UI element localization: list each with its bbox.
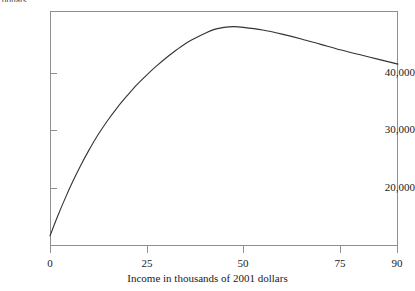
y-tick-label-40000: 40,000 <box>371 67 415 78</box>
x-tick-label-0: 0 <box>47 258 53 269</box>
x-tick-label-25: 25 <box>142 258 153 269</box>
x-tick-mark-90 <box>397 246 398 253</box>
x-tick-label-75: 75 <box>335 258 346 269</box>
x-tick-label-90: 90 <box>392 258 403 269</box>
line-path <box>50 27 398 236</box>
y-tick-label-20000: 20,000 <box>371 182 415 193</box>
y-axis-label-clipped: dollars <box>2 0 27 2</box>
y-tick-mark-20000 <box>50 188 57 189</box>
y-tick-mark-40000 <box>50 73 57 74</box>
x-tick-mark-0 <box>50 246 51 253</box>
y-tick-label-30000: 30,000 <box>371 124 415 135</box>
y-tick-mark-30000 <box>50 130 57 131</box>
chart-figure: dollars 40,000 30,000 20,000 0 25 50 75 … <box>0 0 415 291</box>
curve-series-expected-value <box>50 11 398 246</box>
x-tick-mark-75 <box>340 246 341 253</box>
x-axis-label: Income in thousands of 2001 dollars <box>0 272 415 284</box>
x-tick-mark-25 <box>147 246 148 253</box>
x-tick-label-50: 50 <box>238 258 249 269</box>
x-tick-mark-50 <box>243 246 244 253</box>
